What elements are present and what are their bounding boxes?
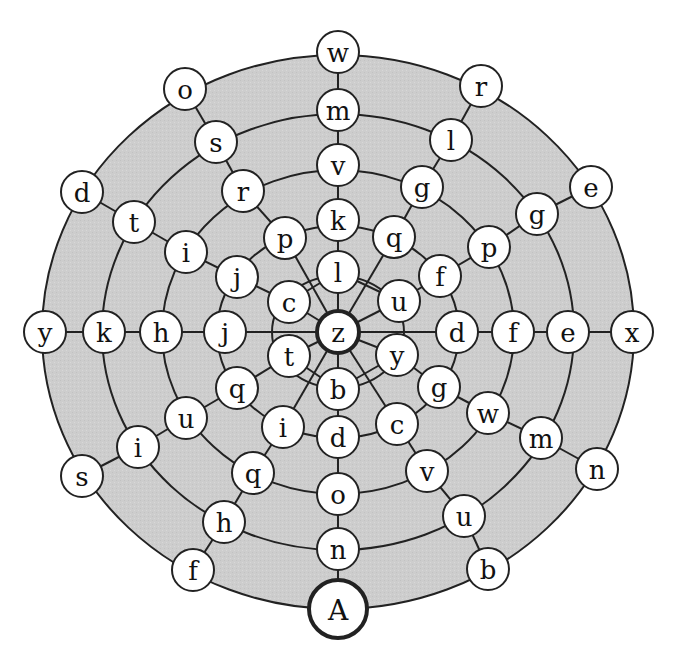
- node-letter: i: [182, 238, 190, 268]
- letter-node[interactable]: i: [165, 231, 207, 273]
- letter-node[interactable]: b: [317, 368, 359, 410]
- node-letter: d: [330, 423, 347, 453]
- node-letter: g: [529, 200, 546, 230]
- letter-node[interactable]: k: [83, 311, 125, 353]
- letter-node[interactable]: k: [317, 199, 359, 241]
- node-letter: e: [583, 173, 598, 203]
- letter-node[interactable]: s: [195, 121, 237, 163]
- node-letter: w: [327, 38, 349, 68]
- node-letter: v: [330, 151, 346, 181]
- letter-node[interactable]: o: [317, 473, 359, 515]
- letter-node[interactable]: p: [468, 226, 510, 268]
- letter-node[interactable]: m: [317, 89, 359, 131]
- letter-maze-diagram: zluybtckqfdgcdiqjjpvgpfwvoquhirmlgemunhi…: [0, 0, 675, 664]
- node-letter: g: [431, 373, 448, 403]
- node-letter: u: [456, 502, 473, 532]
- node-letter: n: [589, 455, 606, 485]
- node-letter: e: [560, 318, 575, 348]
- letter-node[interactable]: e: [570, 166, 612, 208]
- letter-node[interactable]: w: [317, 31, 359, 73]
- node-letter: t: [284, 342, 295, 372]
- letter-node[interactable]: f: [419, 255, 461, 297]
- letter-node[interactable]: h: [203, 501, 245, 543]
- node-letter: s: [75, 462, 88, 492]
- node-letter: r: [475, 72, 488, 102]
- letter-node[interactable]: j: [204, 311, 246, 353]
- node-letter: w: [477, 399, 499, 429]
- node-letter: l: [334, 258, 342, 288]
- node-letter: p: [277, 224, 294, 254]
- letter-node[interactable]: b: [467, 548, 509, 590]
- letter-node[interactable]: g: [418, 366, 460, 408]
- letter-node[interactable]: y: [376, 334, 418, 376]
- node-letter: l: [447, 126, 455, 156]
- letter-node[interactable]: u: [165, 397, 207, 439]
- letter-node[interactable]: l: [317, 251, 359, 293]
- node-letter: y: [389, 341, 405, 371]
- node-letter: m: [326, 96, 351, 126]
- node-letter: m: [529, 424, 554, 454]
- letter-node[interactable]: g: [516, 193, 558, 235]
- node-letter: r: [237, 177, 250, 207]
- letter-node[interactable]: u: [443, 495, 485, 537]
- letter-nodes: zluybtckqfdgcdiqjjpvgpfwvoquhirmlgemunhi…: [24, 31, 653, 638]
- node-letter: v: [419, 457, 435, 487]
- node-letter: z: [331, 318, 345, 348]
- node-letter: s: [209, 128, 222, 158]
- node-letter: g: [414, 173, 431, 203]
- letter-node[interactable]: q: [373, 216, 415, 258]
- letter-node[interactable]: l: [430, 119, 472, 161]
- letter-node[interactable]: x: [611, 311, 653, 353]
- node-letter: u: [178, 404, 195, 434]
- letter-node[interactable]: g: [401, 166, 443, 208]
- letter-node[interactable]: d: [317, 416, 359, 458]
- node-letter: c: [282, 288, 297, 318]
- start-node[interactable]: A: [309, 580, 367, 638]
- node-letter: b: [330, 375, 347, 405]
- letter-node[interactable]: d: [61, 171, 103, 213]
- letter-node[interactable]: t: [268, 335, 310, 377]
- letter-node[interactable]: d: [436, 311, 478, 353]
- letter-node[interactable]: i: [262, 406, 304, 448]
- letter-node[interactable]: m: [520, 417, 562, 459]
- letter-node[interactable]: v: [317, 144, 359, 186]
- letter-node[interactable]: w: [467, 392, 509, 434]
- node-letter: k: [330, 206, 346, 236]
- letter-node[interactable]: e: [547, 311, 589, 353]
- letter-node[interactable]: o: [164, 68, 206, 110]
- letter-node[interactable]: f: [492, 311, 534, 353]
- node-letter: h: [216, 508, 233, 538]
- node-letter: b: [480, 555, 497, 585]
- letter-node[interactable]: j: [216, 256, 258, 298]
- letter-node[interactable]: h: [140, 311, 182, 353]
- node-letter: q: [245, 459, 262, 489]
- node-letter: q: [229, 374, 246, 404]
- letter-node[interactable]: v: [406, 450, 448, 492]
- node-letter: p: [481, 233, 498, 263]
- node-letter: d: [74, 178, 91, 208]
- letter-node[interactable]: r: [460, 65, 502, 107]
- letter-node[interactable]: f: [172, 549, 214, 591]
- letter-node[interactable]: n: [317, 528, 359, 570]
- letter-node[interactable]: n: [576, 448, 618, 490]
- node-letter: d: [449, 318, 466, 348]
- letter-node[interactable]: q: [216, 367, 258, 409]
- node-letter: n: [330, 535, 347, 565]
- letter-node[interactable]: u: [378, 280, 420, 322]
- letter-node[interactable]: s: [61, 455, 103, 497]
- letter-node[interactable]: i: [117, 426, 159, 468]
- node-letter: c: [390, 410, 405, 440]
- node-letter: o: [330, 480, 346, 510]
- letter-node[interactable]: y: [24, 311, 66, 353]
- letter-node[interactable]: c: [376, 403, 418, 445]
- node-letter: t: [129, 208, 140, 238]
- letter-node[interactable]: t: [113, 201, 155, 243]
- node-letter: u: [391, 287, 408, 317]
- node-letter: y: [37, 318, 53, 348]
- letter-node[interactable]: p: [264, 217, 306, 259]
- goal-node[interactable]: z: [317, 311, 359, 353]
- letter-node[interactable]: r: [222, 170, 264, 212]
- letter-node[interactable]: c: [268, 281, 310, 323]
- letter-node[interactable]: q: [232, 452, 274, 494]
- node-letter: i: [279, 413, 287, 443]
